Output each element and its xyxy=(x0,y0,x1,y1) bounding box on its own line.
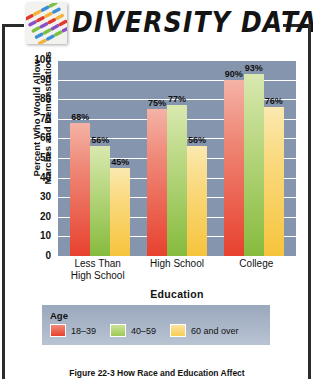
legend-item[interactable]: 18–39 xyxy=(50,324,96,337)
bar-value-label: 56% xyxy=(188,135,206,145)
bar[interactable]: 93% xyxy=(244,74,264,256)
y-axis-title-line: Marches and Demonstrations xyxy=(42,23,53,213)
x-axis-labels: Less ThanHigh SchoolHigh SchoolCollege xyxy=(58,258,296,282)
x-axis-label-line: Less Than xyxy=(58,258,137,270)
bar-value-label: 45% xyxy=(111,157,129,167)
bar-groups: 68%56%45%75%77%56%90%93%76% xyxy=(58,60,296,256)
legend-label: 18–39 xyxy=(71,326,96,336)
bar-value-label: 56% xyxy=(91,135,109,145)
header-rule-left xyxy=(2,24,24,27)
x-axis-label-line: College xyxy=(217,258,296,270)
y-axis-title-line: Percent Who Would Allow xyxy=(31,23,42,213)
figure-caption: Figure 22-3 How Race and Education Affec… xyxy=(13,368,301,379)
legend-label: 60 and over xyxy=(191,326,239,336)
bar[interactable]: 77% xyxy=(167,105,187,256)
bar-slot: 90% xyxy=(224,60,244,256)
legend: Age 18–3940–5960 and over xyxy=(42,305,270,345)
frame-border-left xyxy=(2,24,5,379)
x-axis-label: College xyxy=(217,258,296,282)
bar-value-label: 77% xyxy=(168,94,186,104)
bar-slot: 68% xyxy=(70,60,90,256)
bar-group: 90%93%76% xyxy=(215,60,292,256)
plot-area: 68%56%45%75%77%56%90%93%76% xyxy=(58,60,296,256)
bar[interactable]: 68% xyxy=(70,123,90,256)
gridline xyxy=(58,256,296,257)
legend-swatch xyxy=(50,324,66,337)
x-axis-label: High School xyxy=(137,258,216,282)
bar[interactable]: 45% xyxy=(110,168,130,256)
bar[interactable]: 76% xyxy=(264,107,284,256)
bar-group: 75%77%56% xyxy=(139,60,216,256)
y-axis-tick: 10 xyxy=(40,231,51,241)
frame-border-right xyxy=(308,24,311,379)
x-axis-label-line: High School xyxy=(137,258,216,270)
bar-slot: 93% xyxy=(244,60,264,256)
x-axis-label: Less ThanHigh School xyxy=(58,258,137,282)
bar-value-label: 76% xyxy=(265,96,283,106)
bar[interactable]: 56% xyxy=(90,146,110,256)
page-title: DIVERSITY DATA xyxy=(72,6,313,38)
y-axis-title: Percent Who Would AllowMarches and Demon… xyxy=(31,23,53,213)
bar-slot: 56% xyxy=(90,60,110,256)
legend-items: 18–3940–5960 and over xyxy=(50,324,262,337)
x-axis-title: Education xyxy=(58,288,296,300)
legend-swatch xyxy=(110,324,126,337)
legend-item[interactable]: 40–59 xyxy=(110,324,156,337)
bar-slot: 75% xyxy=(147,60,167,256)
bar-value-label: 68% xyxy=(71,112,89,122)
bar-group: 68%56%45% xyxy=(62,60,139,256)
bar-slot: 56% xyxy=(187,60,207,256)
bar-slot: 76% xyxy=(264,60,284,256)
bar-chart: 0102030405060708090100 Percent Who Would… xyxy=(13,52,301,300)
bar-value-label: 75% xyxy=(148,98,166,108)
y-axis-tick: 0 xyxy=(45,251,51,261)
bar[interactable]: 90% xyxy=(224,80,244,256)
legend-swatch xyxy=(170,324,186,337)
bar[interactable]: 56% xyxy=(187,146,207,256)
bar-value-label: 90% xyxy=(225,69,243,79)
bar-slot: 45% xyxy=(110,60,130,256)
legend-item[interactable]: 60 and over xyxy=(170,324,239,337)
legend-label: 40–59 xyxy=(131,326,156,336)
bar-value-label: 93% xyxy=(245,63,263,73)
y-axis-tick: 20 xyxy=(40,212,51,222)
bar-slot: 77% xyxy=(167,60,187,256)
x-axis-label-line: High School xyxy=(58,270,137,282)
bar[interactable]: 75% xyxy=(147,109,167,256)
legend-title: Age xyxy=(50,310,262,321)
